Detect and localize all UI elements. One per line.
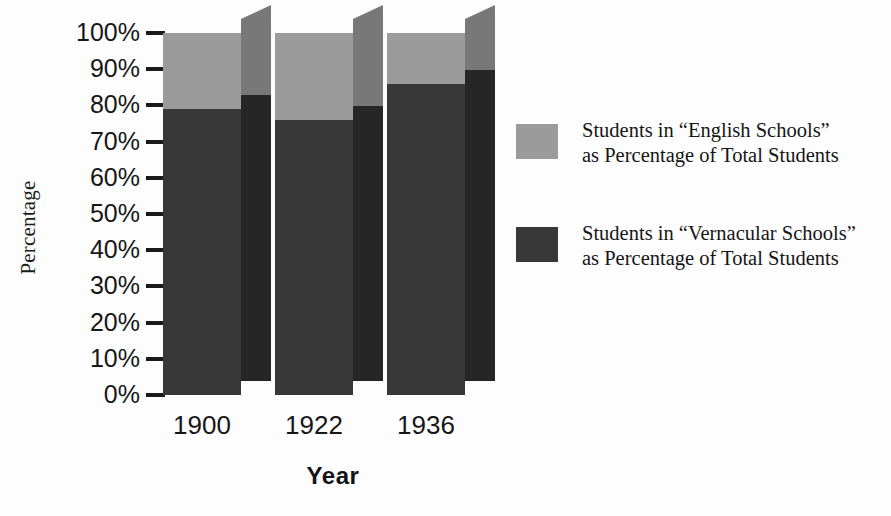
x-axis-tick-label: 1922 [264,410,364,441]
legend-label-line1: Students in “Vernacular Schools” [582,221,891,246]
x-axis-title: Year [163,462,503,490]
x-axis-tick-label: 1900 [152,410,252,441]
legend-label-line2: as Percentage of Total Students [582,246,891,271]
legend-swatch-icon [516,124,558,159]
x-axis-tick-label: 1936 [376,410,476,441]
legend-swatch-icon [516,227,558,262]
legend-label-line1: Students in “English Schools” [582,118,891,143]
legend-label: Students in “Vernacular Schools”as Perce… [582,221,891,271]
legend-label: Students in “English Schools”as Percenta… [582,118,891,168]
chart-figure: Percentage 100%90%80%70%60%50%40%30%20%1… [0,0,891,516]
legend-label-line2: as Percentage of Total Students [582,143,891,168]
